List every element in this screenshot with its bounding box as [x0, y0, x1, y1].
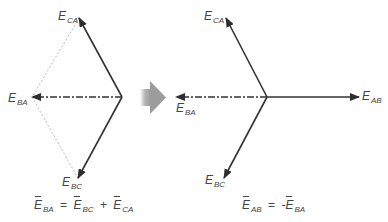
label-e-ca-right: ECA: [204, 10, 224, 22]
vector-e-bc: [224, 97, 267, 178]
label-e-ca-left: ECA: [58, 10, 78, 22]
right-diagram: [176, 18, 359, 178]
construction-line-top: [32, 18, 79, 97]
construction-line-bottom: [32, 97, 78, 178]
label-e-ab-right: EAB: [362, 90, 382, 102]
equation-right: EAB = -EBA: [242, 199, 305, 211]
label-e-ba-right: EBA: [176, 102, 196, 114]
right-arrow-icon: [140, 81, 166, 114]
vector-e-ca: [226, 18, 267, 97]
equation-left: EBA = EBC + ECA: [34, 199, 133, 211]
label-e-ba-left: EBA: [8, 92, 28, 104]
label-e-bc-left: EBC: [62, 176, 82, 188]
left-diagram: [32, 18, 122, 178]
vector-e-ca: [79, 18, 122, 97]
label-e-bc-right: EBC: [205, 174, 225, 186]
vector-e-bc: [78, 97, 122, 178]
